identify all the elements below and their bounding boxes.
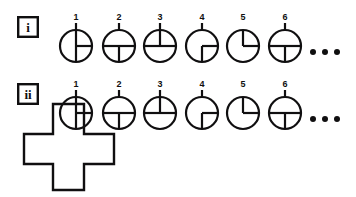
circle-number-label: 5 [240,12,245,22]
circle-number-label: 6 [282,12,287,22]
figure-canvas: i123456ii123456 [0,0,356,197]
circle-number-label: 4 [199,12,204,22]
circle-number-label: 1 [73,79,78,89]
row-i: i123456 [18,12,340,62]
circle-number-label: 1 [73,12,78,22]
circle-number-label: 3 [157,12,162,22]
sector-circle: 1 [60,12,92,62]
row-label-text: i [26,20,30,35]
sector-circle: 4 [186,12,218,62]
sector-circle: 4 [186,79,218,129]
sector-circle: 2 [103,79,135,129]
circle-number-label: 6 [282,79,287,89]
circle-number-label: 5 [240,79,245,89]
sector-circle: 3 [144,12,176,62]
row-label-text: ii [24,87,32,102]
circle-number-label: 3 [157,79,162,89]
ellipsis-dot [322,49,328,55]
circle-number-label: 2 [116,79,121,89]
geometry-figure: i123456ii123456 [0,0,356,197]
ellipsis-dots [310,116,340,122]
ellipsis-dot [322,116,328,122]
circle-number-label: 4 [199,79,204,89]
sector-circle: 5 [227,79,259,129]
ellipsis-dot [310,116,316,122]
ellipsis-dot [334,116,340,122]
circle-number-label: 2 [116,12,121,22]
row-ii: ii123456 [18,79,340,190]
sector-circle: 6 [269,12,301,62]
sector-circle: 3 [144,79,176,129]
sector-circle: 6 [269,79,301,129]
ellipsis-dot [334,49,340,55]
ellipsis-dot [310,49,316,55]
ellipsis-dots [310,49,340,55]
sector-circle: 5 [227,12,259,62]
cross-polygon [24,104,114,190]
sector-circle: 2 [103,12,135,62]
